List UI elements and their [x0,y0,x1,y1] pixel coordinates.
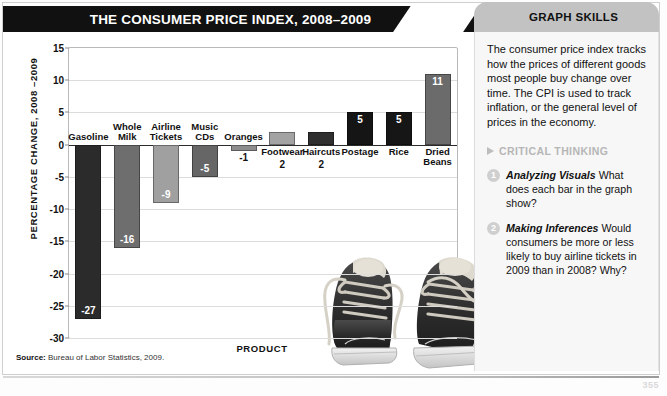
y-axis-tickmark [65,48,69,49]
critical-thinking-heading: CRITICAL THINKING [487,145,646,157]
question-text: Making Inferences Would consumers be mor… [506,221,646,277]
page-root: 355 THE CONSUMER PRICE INDEX, 2008–2009 … [0,0,667,396]
graph-skills-panel: The consumer price index tracks how the … [474,32,659,371]
question-term: Analyzing Visuals [506,169,596,181]
bar-value-label: -5 [193,163,217,174]
y-axis-tickmark [65,241,69,242]
plot-area: 151050-5-10-15-20-25-30-27Gasoline-16Who… [68,47,458,339]
bar-category-label: Oranges [216,132,272,143]
gridline [69,306,457,307]
y-axis-tickmark [65,338,69,339]
chart-bar: -9 [153,145,179,203]
chart-bar: -16 [114,145,140,248]
source-note: Source: Bureau of Labor Statistics, 2009… [16,353,164,362]
bar-value-label: -27 [76,305,100,316]
graph-skills-label: GRAPH SKILLS [515,11,618,23]
bottom-rule [3,376,659,378]
chart-card: PERCENTAGE CHANGE, 2008 –2009 [6,33,470,371]
bar-value-label: -16 [115,234,139,245]
y-axis-tick: -25 [50,300,64,311]
bar-value-label: 5 [387,114,411,125]
bar-value-label: 11 [426,76,450,87]
y-axis-tickmark [65,305,69,306]
chart-bar: 11 [425,74,451,145]
question-term: Making Inferences [506,222,598,234]
question-item: 2 Making Inferences Would consumers be m… [487,221,646,277]
y-axis-tickmark [65,209,69,210]
question-number-badge: 2 [487,222,500,235]
source-text: Bureau of Labor Statistics, 2009. [48,353,164,362]
gridline [69,338,457,339]
y-axis-tickmark [65,273,69,274]
gridline [69,80,457,81]
bar-category-label: DriedBeans [410,147,466,168]
chart-bar [308,132,334,145]
page-title: THE CONSUMER PRICE INDEX, 2008–2009 [3,6,458,32]
y-axis-tickmark [65,112,69,113]
y-axis-tick: 10 [53,75,64,86]
bar-value-label: -9 [154,189,178,200]
y-axis-tick: -20 [50,268,64,279]
y-axis-tick: -10 [50,204,64,215]
y-axis-tickmark [65,176,69,177]
chart-bar: 5 [347,112,373,144]
triangle-right-icon [487,147,494,155]
y-axis-tick: 15 [53,43,64,54]
graph-skills-tab: GRAPH SKILLS [474,2,659,32]
bar-value-label: 2 [262,159,302,170]
chart-bar: -5 [192,145,218,177]
bar-value-label: 2 [301,159,341,170]
chart-bar: 5 [386,112,412,144]
y-axis-label: PERCENTAGE CHANGE, 2008 –2009 [28,49,39,249]
y-axis-tickmark [65,80,69,81]
gridline [69,48,457,49]
source-label: Source: [16,353,46,362]
y-axis-tick: 5 [58,107,64,118]
question-number-badge: 1 [487,169,500,182]
chart-bar [231,145,257,151]
y-axis-tick: -5 [55,171,64,182]
chart-bar: -27 [75,145,101,319]
y-axis-tick: -15 [50,236,64,247]
question-text: Analyzing Visuals What does each bar in … [506,168,646,210]
panel-intro-text: The consumer price index tracks how the … [487,42,646,130]
y-axis-tick: -30 [50,333,64,344]
bar-value-label: 5 [348,114,372,125]
chart-bar [269,132,295,145]
y-axis-tickmark [65,144,69,145]
critical-thinking-label: CRITICAL THINKING [499,145,608,157]
page-number: 355 [642,380,659,390]
question-item: 1 Analyzing Visuals What does each bar i… [487,168,646,210]
gridline [69,274,457,275]
